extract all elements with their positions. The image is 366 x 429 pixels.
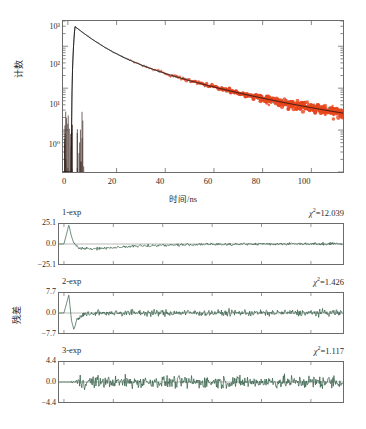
main-xtick-0: 0 [62, 176, 66, 186]
main-xtick-20: 20 [108, 176, 117, 186]
main-decay-plot: 计数 10³ 10² 10¹ 10⁰ 0 20 40 60 80 100 时间/… [0, 0, 366, 205]
residual-y-ticks-1: 25.1 0.0 −25.1 [14, 223, 56, 265]
main-ytick-0: 10⁰ [26, 140, 60, 149]
main-inner-ticks [63, 21, 343, 172]
residual-ytick-mid-3: 0.0 [14, 377, 56, 386]
residual-ytick-mid-2: 0.0 [14, 308, 56, 317]
residual-trace-1 [59, 225, 343, 250]
residual-y-ticks-2: 7.7 0.0 −7.7 [14, 292, 56, 334]
residual-y-ticks-3: 4.4 0.0 −4.4 [14, 361, 56, 403]
main-xtick-100: 100 [298, 176, 311, 186]
residual-ytick-mid-1: 0.0 [14, 239, 56, 248]
residual-ytick-bot-1: −25.1 [14, 260, 56, 269]
main-fit-curve [63, 27, 343, 172]
main-ytick-2: 10² [26, 60, 60, 69]
chi-value-3: =1.117 [320, 346, 344, 356]
main-noise-trace [63, 27, 343, 172]
residual-panel-2-exp: 2-exp χ2=1.426 残差 7.7 0.0 −7.7 [0, 274, 366, 342]
residual-chi-squared-2: χ2=1.426 [313, 276, 344, 287]
main-x-axis-label: 时间/ns [0, 192, 366, 204]
main-xtick-40: 40 [156, 176, 165, 186]
main-ytick-1: 10¹ [26, 100, 60, 109]
residual-canvas-1 [59, 224, 343, 264]
main-red-data [126, 58, 343, 120]
residual-frame-3 [58, 361, 344, 403]
figure-root: 计数 10³ 10² 10¹ 10⁰ 0 20 40 60 80 100 时间/… [0, 0, 366, 429]
residual-trace-2 [59, 295, 343, 329]
main-xtick-60: 60 [204, 176, 213, 186]
chi-value-1: =12.039 [316, 208, 344, 218]
main-plot-frame [62, 20, 344, 173]
residual-title-3: 3-exp [62, 345, 81, 355]
main-plot-canvas [63, 21, 343, 172]
residual-ytick-bot-2: −7.7 [14, 329, 56, 338]
residual-ytick-bot-3: −4.4 [14, 398, 56, 407]
residual-ytick-top-3: 4.4 [14, 356, 56, 365]
residual-title-2: 2-exp [62, 276, 81, 286]
residual-chi-squared-3: χ2=1.117 [314, 345, 344, 356]
residual-frame-1 [58, 223, 344, 265]
residual-canvas-3 [59, 362, 343, 402]
residual-canvas-2 [59, 293, 343, 333]
chi-value-2: =1.426 [320, 277, 344, 287]
residual-frame-2 [58, 292, 344, 334]
residual-panel-3-exp: 3-exp χ2=1.117 4.4 0.0 −4.4 [0, 343, 366, 411]
residual-chi-squared-1: χ2=12.039 [309, 207, 344, 218]
main-xtick-80: 80 [252, 176, 261, 186]
main-x-tick-labels: 0 20 40 60 80 100 [0, 176, 366, 190]
residual-title-1: 1-exp [62, 207, 81, 217]
residual-ytick-top-1: 25.1 [14, 218, 56, 227]
main-ytick-3: 10³ [26, 22, 60, 31]
residual-panel-1-exp: 1-exp χ2=12.039 25.1 0.0 −25.1 [0, 205, 366, 273]
main-y-tick-labels: 10³ 10² 10¹ 10⁰ [22, 0, 60, 205]
residual-ytick-top-2: 7.7 [14, 287, 56, 296]
